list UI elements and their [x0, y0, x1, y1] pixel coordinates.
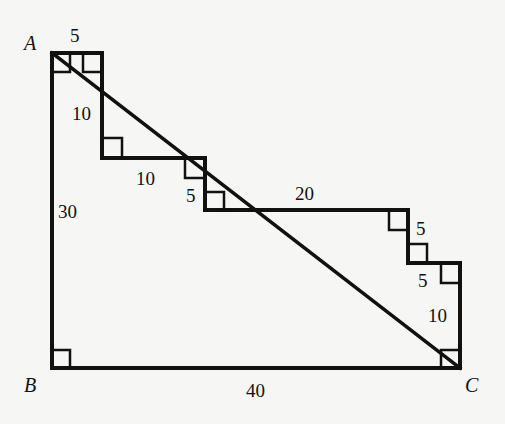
- right-angle-step4-top: [441, 263, 460, 283]
- right-angle-step3-top: [389, 210, 408, 230]
- length-label-top-5: 5: [70, 25, 80, 46]
- geometry-diagram: A B C 5 10 10 5 20 5 5 10 30 40: [0, 0, 505, 424]
- vertex-label-b: B: [24, 374, 36, 396]
- length-label-right-5b: 5: [418, 270, 428, 291]
- right-angle-step3-bottom: [408, 244, 427, 263]
- length-label-right-10: 10: [428, 305, 447, 326]
- length-label-20: 20: [295, 183, 314, 204]
- length-label-mid-10: 10: [136, 168, 155, 189]
- right-angle-step2-bottom: [205, 192, 224, 210]
- right-angle-step1-bottom: [102, 138, 122, 158]
- vertex-label-c: C: [465, 374, 479, 396]
- right-angle-b: [52, 350, 70, 368]
- length-label-step-10: 10: [72, 103, 91, 124]
- length-label-right-5a: 5: [416, 218, 426, 239]
- right-angle-step1-top: [83, 53, 102, 72]
- length-label-40: 40: [246, 380, 265, 401]
- length-label-30: 30: [58, 201, 77, 222]
- vertex-label-a: A: [22, 32, 37, 54]
- length-label-mid-5: 5: [186, 185, 196, 206]
